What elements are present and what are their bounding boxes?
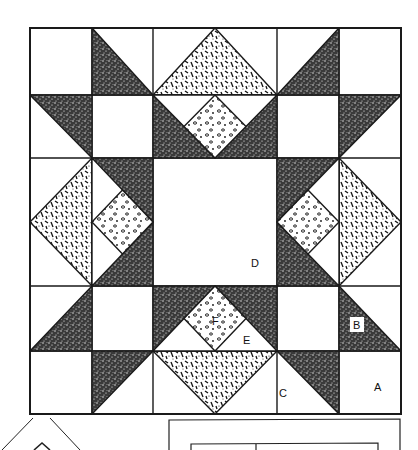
- star-point-triangle: [92, 351, 153, 414]
- inner-square: [92, 95, 153, 158]
- corner-square: [30, 351, 92, 414]
- corner-square: [339, 28, 401, 95]
- corner-square: [30, 28, 92, 95]
- quilt-diagram: A B C D E F: [0, 0, 418, 450]
- label-d: D: [251, 257, 259, 269]
- quilt-pieces: [30, 28, 401, 414]
- star-point-triangle: [30, 286, 92, 351]
- label-b: B: [353, 319, 360, 331]
- star-point-triangle: [277, 28, 339, 95]
- inner-square: [277, 286, 339, 351]
- star-point-triangle-b: [339, 286, 401, 351]
- label-c: C: [279, 387, 287, 399]
- partial-rectangle-diagram: [169, 419, 400, 450]
- partial-diamond-diagram: [2, 418, 80, 450]
- star-point-triangle: [30, 95, 92, 158]
- star-point-triangle: [277, 351, 339, 414]
- inner-square: [277, 95, 339, 158]
- star-point-triangle: [339, 95, 401, 158]
- inner-square: [92, 286, 153, 351]
- corner-square-a: [339, 351, 401, 414]
- label-a: A: [374, 381, 382, 393]
- label-f: F: [212, 315, 219, 327]
- star-point-triangle: [92, 28, 153, 95]
- label-e: E: [243, 334, 250, 346]
